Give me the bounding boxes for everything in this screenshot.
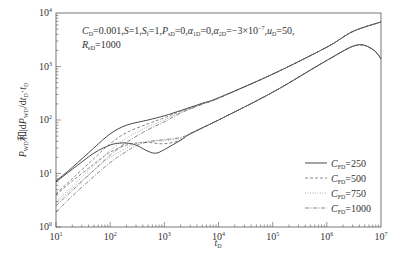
series-lines bbox=[56, 22, 381, 212]
x-tick-label: 103 bbox=[158, 231, 171, 242]
y-tick-label: 102 bbox=[39, 114, 52, 125]
x-tick-label: 105 bbox=[266, 231, 279, 242]
legend-label: CFD=500 bbox=[331, 173, 366, 185]
y-tick-label: 104 bbox=[39, 7, 52, 18]
annotation-line-2: ReD=1000 bbox=[81, 39, 121, 51]
y-tick-label: 103 bbox=[39, 61, 52, 72]
parameter-annotation: CD=0.001,S=1,Sf=1,PsD=0,α1D=0,α2D=−3×10−… bbox=[81, 25, 294, 51]
x-tick-label: 102 bbox=[104, 231, 117, 242]
x-tick-label: 101 bbox=[50, 231, 63, 242]
x-tick-label: 106 bbox=[320, 231, 333, 242]
y-tick-label: 101 bbox=[39, 168, 52, 179]
legend-label: CFD=250 bbox=[331, 158, 366, 170]
legend-label: CFD=750 bbox=[331, 188, 366, 200]
legend-label: CFD=1000 bbox=[331, 203, 371, 215]
y-axis-label: PWD和|dPWD/dtD·tD bbox=[17, 82, 29, 158]
legend: CFD=250CFD=500CFD=750CFD=1000 bbox=[305, 158, 371, 215]
chart: 101102103104105106107100101102103104 CD=… bbox=[0, 0, 404, 266]
x-tick-label: 107 bbox=[375, 231, 388, 242]
annotation-line-1: CD=0.001,S=1,Sf=1,PsD=0,α1D=0,α2D=−3×10−… bbox=[82, 25, 294, 37]
